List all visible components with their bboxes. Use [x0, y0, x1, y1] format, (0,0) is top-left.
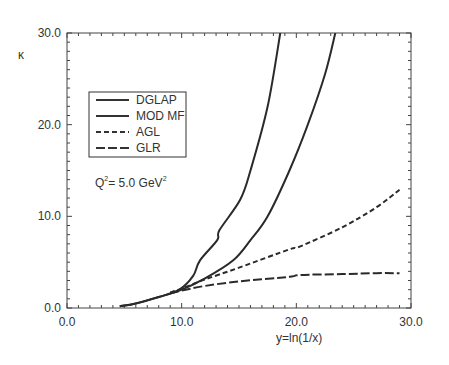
x-tick-label: 10.0	[170, 315, 194, 329]
plot-series	[120, 33, 400, 306]
legend: DGLAP MOD MF AGL GLR	[89, 92, 186, 157]
legend-label-mod-mf: MOD MF	[136, 109, 185, 123]
x-tick-label: 20.0	[285, 315, 309, 329]
y-tick-label: 20.0	[38, 118, 62, 132]
x-axis-label: y=ln(1/x)	[276, 331, 322, 345]
x-tick-label: 30.0	[399, 315, 423, 329]
kappa-vs-y-chart: 0.010.020.030.00.010.020.030.0 DGLAP MOD…	[0, 0, 449, 365]
y-axis-label: κ	[18, 48, 25, 62]
q-squared-annotation: Q2= 5.0 GeV2	[95, 175, 167, 190]
legend-label-dglap: DGLAP	[136, 93, 177, 107]
legend-label-glr: GLR	[136, 141, 161, 155]
y-tick-label: 0.0	[44, 301, 61, 315]
y-tick-label: 30.0	[38, 26, 62, 40]
series-mod-mf	[120, 33, 336, 306]
x-tick-label: 0.0	[59, 315, 76, 329]
y-tick-label: 10.0	[38, 209, 62, 223]
series-glr	[170, 273, 399, 293]
legend-label-agl: AGL	[136, 125, 160, 139]
series-dglap	[120, 33, 281, 306]
